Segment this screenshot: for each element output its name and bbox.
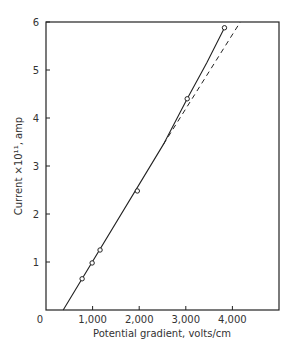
data-point-marker — [135, 189, 139, 193]
y-tick-label: 3 — [33, 161, 39, 172]
y-axis-ticks: 123456 — [33, 17, 50, 268]
plot-frame — [46, 22, 279, 310]
x-axis-label: Potential gradient, volts/cm — [93, 328, 231, 339]
y-tick-label: 4 — [33, 113, 39, 124]
y-tick-label: 1 — [33, 257, 39, 268]
data-point-marker — [90, 261, 94, 265]
y-tick-label: 6 — [33, 17, 39, 28]
data-point-marker — [98, 248, 102, 252]
x-tick-label: 1,000 — [78, 314, 107, 325]
x-tick-label: 3,000 — [171, 314, 200, 325]
chart: 01,0002,0003,0004,000 123456 Potential g… — [0, 0, 294, 357]
x-tick-label: 4,000 — [218, 314, 247, 325]
y-tick-label: 2 — [33, 209, 39, 220]
y-axis-label: Current ×10¹¹, amp — [13, 117, 24, 215]
x-tick-label: 2,000 — [125, 314, 154, 325]
x-tick-label: 0 — [37, 314, 43, 325]
data-markers — [80, 26, 227, 281]
extrapolation-dashed-line — [163, 22, 240, 144]
y-tick-label: 5 — [33, 65, 39, 76]
data-point-marker — [80, 277, 84, 281]
measured-curve — [63, 28, 224, 310]
x-axis-ticks: 01,0002,0003,0004,000 — [37, 306, 247, 325]
data-point-marker — [185, 97, 189, 101]
data-point-marker — [222, 26, 226, 30]
